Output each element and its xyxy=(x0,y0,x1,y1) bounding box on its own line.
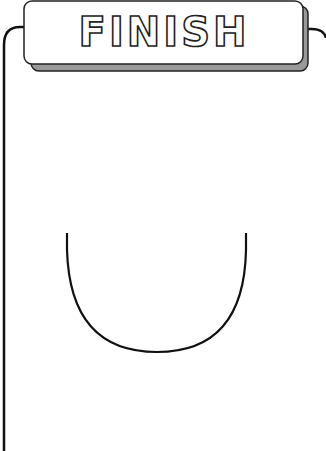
u-curve xyxy=(67,233,246,352)
finish-drawing xyxy=(0,0,326,451)
left-frame-line xyxy=(4,27,25,451)
banner-title: FINISH xyxy=(24,4,304,60)
